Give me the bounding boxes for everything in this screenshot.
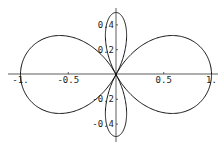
- polar-plot: -1.-0.50.51. 0.40.2-0.2-0.4: [0, 0, 224, 147]
- x-tick-label: 0.5: [156, 75, 172, 85]
- y-tick-label: -0.4: [92, 119, 114, 129]
- x-tick-label: -0.5: [57, 75, 79, 85]
